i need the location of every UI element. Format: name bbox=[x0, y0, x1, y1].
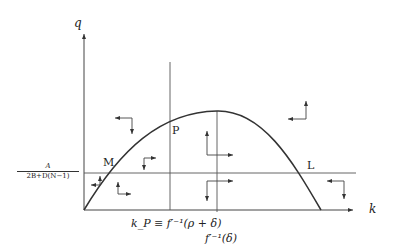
dk-zero-curve bbox=[84, 111, 321, 210]
phase-diagram: q k M P L A 2B+D(N−1) k_P ≡ f′⁻¹(ρ + δ) … bbox=[0, 0, 395, 252]
arrow-bottom-right bbox=[327, 181, 344, 199]
kp-label: k_P ≡ f′⁻¹(ρ + δ) bbox=[131, 218, 221, 229]
arrow-top-left bbox=[115, 118, 132, 134]
arrow-near-m-right bbox=[144, 158, 156, 170]
fraction-numerator: A bbox=[17, 163, 79, 172]
arrow-under-peak-upper bbox=[207, 131, 233, 155]
arrow-top-right bbox=[288, 101, 306, 119]
f-inverse-delta-label: f′⁻¹(δ) bbox=[205, 233, 237, 244]
diagram-canvas bbox=[0, 0, 395, 252]
point-m-label: M bbox=[103, 157, 114, 168]
q-steady-fraction: A 2B+D(N−1) bbox=[17, 163, 79, 180]
q-axis-label: q bbox=[74, 17, 82, 29]
arrow-below-m-right bbox=[118, 182, 131, 194]
fraction-denominator: 2B+D(N−1) bbox=[17, 172, 79, 180]
point-p-label: P bbox=[172, 125, 179, 136]
arrow-under-peak-lower bbox=[207, 181, 233, 201]
k-axis-label: k bbox=[369, 203, 376, 215]
point-l-label: L bbox=[307, 160, 314, 171]
arrow-below-m-left bbox=[91, 176, 100, 185]
